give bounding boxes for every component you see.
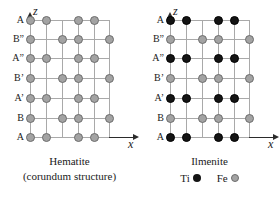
atom (105, 74, 114, 83)
row-label: A” (142, 53, 164, 63)
atom (105, 114, 114, 123)
row-label: B’ (2, 73, 24, 83)
atom (182, 133, 191, 142)
legend-entry: Fe (217, 172, 239, 184)
row-label: A (2, 132, 24, 142)
grid-line-vertical (186, 20, 187, 137)
grid-line-vertical (94, 20, 95, 137)
atom (26, 54, 35, 63)
atom (214, 133, 223, 142)
grid-line-vertical (46, 20, 47, 137)
grid-line-horizontal (30, 39, 109, 40)
z-axis-label: z (33, 5, 38, 17)
grid-line-horizontal (30, 78, 109, 79)
atom (74, 74, 83, 83)
atom (198, 35, 207, 44)
grid-line-horizontal (30, 118, 109, 119)
diagram-hematite: z x AB”A”B’A’BA (0, 4, 139, 149)
atom (166, 35, 175, 44)
atom (90, 133, 99, 142)
x-axis-arrow-icon (133, 134, 139, 140)
atom (74, 114, 83, 123)
grid-line-horizontal (170, 78, 249, 79)
legend-entry: Ti (180, 172, 200, 184)
atom (214, 35, 223, 44)
row-label: A” (2, 53, 24, 63)
lattice-hematite (30, 20, 109, 137)
atom (230, 133, 239, 142)
x-axis-label: x (128, 138, 133, 150)
atom (182, 54, 191, 63)
row-label: A (142, 132, 164, 142)
atom (166, 54, 175, 63)
caption-title-ilmenite: Ilmenite (140, 155, 279, 168)
lattice-ilmenite (170, 20, 249, 137)
atom (26, 114, 35, 123)
crystal-structure-figure: z x AB”A”B’A’BA Hematite (corundum struc… (0, 0, 279, 198)
atom (214, 114, 223, 123)
grid-line-horizontal (170, 39, 249, 40)
atom (166, 133, 175, 142)
row-label: A (142, 15, 164, 25)
atom (58, 74, 67, 83)
panel-ilmenite: z x AB”A”B’A’BA Ilmenite TiFe (140, 0, 279, 198)
atom (26, 74, 35, 83)
row-label: B (142, 113, 164, 123)
grid-line-vertical (234, 20, 235, 137)
legend-dot-icon (193, 174, 201, 182)
atom (58, 114, 67, 123)
atom (214, 54, 223, 63)
x-axis-arrow-icon (273, 134, 279, 140)
atom (245, 35, 254, 44)
atom (74, 133, 83, 142)
atom (230, 16, 239, 25)
caption-subtitle-hematite: (corundum structure) (0, 170, 139, 183)
atom (26, 16, 35, 25)
row-label: B (2, 113, 24, 123)
atom (198, 114, 207, 123)
row-label: A (2, 15, 24, 25)
atom (214, 16, 223, 25)
atom (182, 16, 191, 25)
atom (166, 16, 175, 25)
atom (245, 74, 254, 83)
atom (26, 35, 35, 44)
atom (105, 35, 114, 44)
legend-ilmenite: TiFe (140, 172, 279, 184)
atom (42, 16, 51, 25)
legend-dot-icon (231, 174, 239, 182)
x-axis-label: x (268, 138, 273, 150)
z-axis-label: z (173, 5, 178, 17)
atom (230, 54, 239, 63)
legend-label: Fe (217, 172, 228, 184)
atom (42, 94, 51, 103)
atom (74, 35, 83, 44)
atom (90, 94, 99, 103)
atom (26, 133, 35, 142)
row-label: A’ (142, 93, 164, 103)
atom (198, 74, 207, 83)
row-label: B’ (142, 73, 164, 83)
row-label: B” (2, 34, 24, 44)
row-label: A’ (2, 93, 24, 103)
atom (26, 94, 35, 103)
atom (214, 74, 223, 83)
atom (214, 94, 223, 103)
caption-title-hematite: Hematite (0, 155, 139, 168)
atom (166, 114, 175, 123)
atom (90, 16, 99, 25)
grid-line-horizontal (170, 118, 249, 119)
atom (90, 54, 99, 63)
atom (58, 35, 67, 44)
legend-label: Ti (180, 172, 189, 184)
atom (42, 133, 51, 142)
atom (74, 94, 83, 103)
atom (74, 54, 83, 63)
atom (182, 94, 191, 103)
atom (166, 94, 175, 103)
atom (42, 54, 51, 63)
atom (230, 94, 239, 103)
atom (166, 74, 175, 83)
atom (74, 16, 83, 25)
panel-hematite: z x AB”A”B’A’BA Hematite (corundum struc… (0, 0, 139, 198)
